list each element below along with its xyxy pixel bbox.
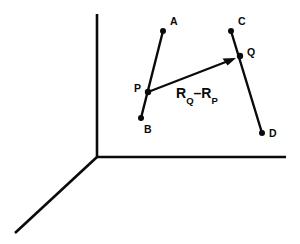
vector-label-symbol-1: R bbox=[176, 85, 186, 101]
diagram-canvas bbox=[0, 0, 300, 244]
point-label-A: A bbox=[170, 16, 178, 27]
point-dot-Q bbox=[237, 53, 243, 59]
point-dot-A bbox=[160, 28, 166, 34]
point-dot-C bbox=[228, 28, 234, 34]
point-label-D: D bbox=[269, 128, 277, 139]
vector-label-subscript-2: P bbox=[211, 95, 217, 106]
point-label-C: C bbox=[238, 16, 246, 27]
vector-diagram: A B C D P Q RQ–RP bbox=[0, 0, 300, 244]
point-dot-D bbox=[259, 130, 265, 136]
segment-AB bbox=[141, 31, 163, 118]
point-label-B: B bbox=[144, 124, 152, 135]
vector-label-subscript-1: Q bbox=[186, 95, 193, 106]
segment-AB-group bbox=[141, 31, 163, 118]
vector-label-symbol-2: R bbox=[201, 85, 211, 101]
point-label-P: P bbox=[134, 83, 141, 94]
point-label-Q: Q bbox=[247, 47, 255, 58]
depth-axis bbox=[15, 157, 97, 233]
point-dot-B bbox=[138, 115, 144, 121]
vector-label: RQ–RP bbox=[176, 86, 218, 103]
point-dot-P bbox=[145, 89, 151, 95]
